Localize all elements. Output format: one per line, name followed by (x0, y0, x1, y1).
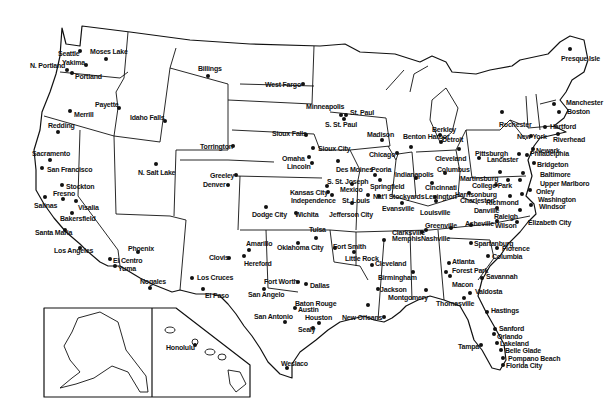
city-dot (352, 250, 356, 254)
city-label: Visalia (78, 204, 99, 212)
city-label: Redding (48, 122, 75, 130)
city-dot (528, 188, 532, 192)
city-label: Cleveland (375, 260, 406, 268)
city-label: Belle Glade (505, 347, 541, 355)
city-label: San Angelo (248, 291, 284, 299)
city-label: N. Portland (30, 62, 65, 70)
city-dot (501, 356, 505, 360)
city-dot (74, 199, 78, 203)
city-dot (154, 162, 158, 166)
city-label: Nashville (421, 235, 450, 243)
city-label: Bakersfield (60, 215, 96, 223)
city-label: Fresno (53, 190, 75, 198)
city-label: Windsor (539, 203, 566, 211)
city-label: Santa Maria (35, 229, 72, 237)
city-label: Savannah (486, 273, 517, 281)
city-dot (532, 161, 536, 165)
city-dot (242, 254, 246, 258)
city-label: Little Rock (345, 255, 379, 263)
city-dot (366, 303, 370, 307)
city-dot (500, 110, 504, 114)
city-dot (43, 195, 47, 199)
city-label: Tampa (458, 343, 479, 351)
city-label: Madison (367, 131, 394, 139)
city-label: College Park (472, 182, 512, 190)
city-dot (557, 110, 561, 114)
city-label: Torrington (200, 143, 233, 151)
city-dot (447, 261, 451, 265)
city-dot (568, 47, 572, 51)
city-label: Des Moines (336, 166, 373, 174)
city-label: Indianapolis (395, 171, 433, 179)
city-label: Yakima (62, 59, 85, 67)
alaska-shape (60, 312, 148, 392)
city-label: Springfield (370, 183, 404, 191)
city-label: Nogales (140, 278, 166, 286)
city-dot (444, 270, 448, 274)
city-label: Columbia (492, 253, 522, 261)
city-dot (395, 151, 399, 155)
city-label: Memphis (392, 235, 421, 243)
city-label: Montgomery (388, 294, 428, 302)
city-dot (486, 254, 490, 258)
city-dot (382, 238, 386, 242)
city-dot (190, 276, 194, 280)
city-label: Rochester (499, 121, 531, 129)
city-label: Dallas (310, 282, 329, 290)
city-label: Clovis (209, 254, 229, 262)
city-label: Payette (95, 101, 119, 109)
city-label: El Paso (205, 292, 229, 300)
city-label: Kansas City (290, 189, 328, 197)
city-dot (469, 241, 473, 245)
city-label: Lincoln (287, 163, 311, 171)
city-label: Berkley (432, 126, 456, 134)
city-label: Greeley (210, 172, 234, 180)
city-label: Honolulu (166, 344, 195, 352)
city-label: Sealy (298, 326, 315, 334)
city-dot (293, 306, 297, 310)
city-label: Fort Smith (333, 243, 366, 251)
city-dot (70, 71, 74, 75)
city-dot (68, 109, 72, 113)
city-label: Greenville (425, 222, 457, 230)
city-label: Merrill (74, 111, 94, 119)
city-dot (495, 341, 499, 345)
city-dot (336, 159, 340, 163)
city-dot (485, 310, 489, 314)
city-label: Fort Worth (264, 278, 298, 286)
city-label: Amarillo (246, 240, 272, 248)
city-label: Sioux City (318, 145, 350, 153)
city-label: Salinas (34, 202, 57, 210)
city-label: Jefferson City (329, 211, 373, 219)
city-dot (499, 348, 503, 352)
city-label: Detroit (442, 136, 463, 144)
city-dot (492, 332, 496, 336)
city-label: El Centro (113, 257, 142, 265)
city-dot (206, 74, 210, 78)
city-label: Los Cruces (197, 274, 233, 282)
city-label: Yuma (118, 265, 136, 273)
city-label: Sanford (499, 325, 524, 333)
city-label: Idaho Falls (130, 114, 164, 122)
city-label: Moses Lake (90, 48, 128, 56)
city-label: Hereford (244, 260, 272, 268)
city-label: Independence (291, 197, 336, 205)
city-label: Macon (452, 281, 473, 289)
city-dot (508, 194, 512, 198)
city-label: Onley (536, 188, 554, 196)
city-dot (148, 286, 152, 290)
city-dot (515, 220, 519, 224)
city-dot (201, 287, 205, 291)
city-label: Hastings (491, 307, 519, 315)
city-label: Wichita (295, 211, 318, 219)
city-dot (543, 125, 547, 129)
city-label: S. St. Paul (325, 121, 357, 129)
city-label: Richmond (486, 199, 519, 207)
city-label: Seattle (58, 50, 80, 58)
city-dot (48, 158, 52, 162)
city-dot (314, 236, 318, 240)
city-label: Valdosta (475, 288, 502, 296)
city-dot (113, 264, 117, 268)
city-dot (409, 145, 413, 149)
city-label: Sacramento (32, 150, 70, 158)
